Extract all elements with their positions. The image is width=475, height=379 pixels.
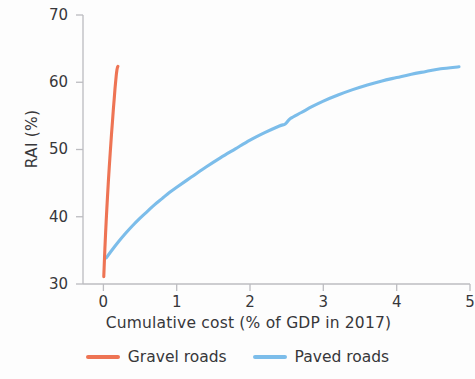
chart-legend: Gravel roads Paved roads [0,348,475,366]
x-tick-label-4: 4 [382,293,412,311]
y-tick-label-50: 50 [32,140,68,158]
y-tick-label-30: 30 [32,275,68,293]
x-tick-label-1: 1 [162,293,192,311]
y-axis-title: RAI (%) [23,94,41,184]
x-tick-label-5: 5 [455,293,475,311]
legend-label-paved-roads: Paved roads [295,348,390,366]
x-axis-title: Cumulative cost (% of GDP in 2017) [0,314,475,332]
chart-figure: RAI (%) Cumulative cost (% of GDP in 201… [0,0,475,379]
y-tick-label-40: 40 [32,208,68,226]
y-tick-label-70: 70 [32,6,68,24]
x-tick-label-0: 0 [88,293,118,311]
x-axis-ticks [103,284,470,291]
series-line-paved-roads [106,67,459,258]
y-axis-ticks [76,15,83,284]
axes-group [76,15,470,291]
legend-item-gravel-roads[interactable]: Gravel roads [86,348,227,366]
legend-item-paved-roads[interactable]: Paved roads [253,348,390,366]
legend-label-gravel-roads: Gravel roads [128,348,227,366]
x-tick-label-2: 2 [235,293,265,311]
x-tick-label-3: 3 [308,293,338,311]
legend-swatch-paved-icon [253,355,287,358]
data-series-group [104,66,459,276]
y-tick-label-60: 60 [32,73,68,91]
legend-swatch-gravel-icon [86,355,120,358]
